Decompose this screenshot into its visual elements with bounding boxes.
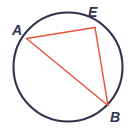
circumscribed-circle <box>14 13 123 122</box>
chord-e-b <box>95 28 108 106</box>
vertex-label-a: A <box>12 23 22 37</box>
chord-a-b <box>27 39 109 106</box>
geometry-figure: A E B <box>0 0 132 134</box>
vertex-label-e: E <box>88 5 97 19</box>
vertex-label-b: B <box>110 110 120 124</box>
chord-a-e <box>27 28 96 39</box>
